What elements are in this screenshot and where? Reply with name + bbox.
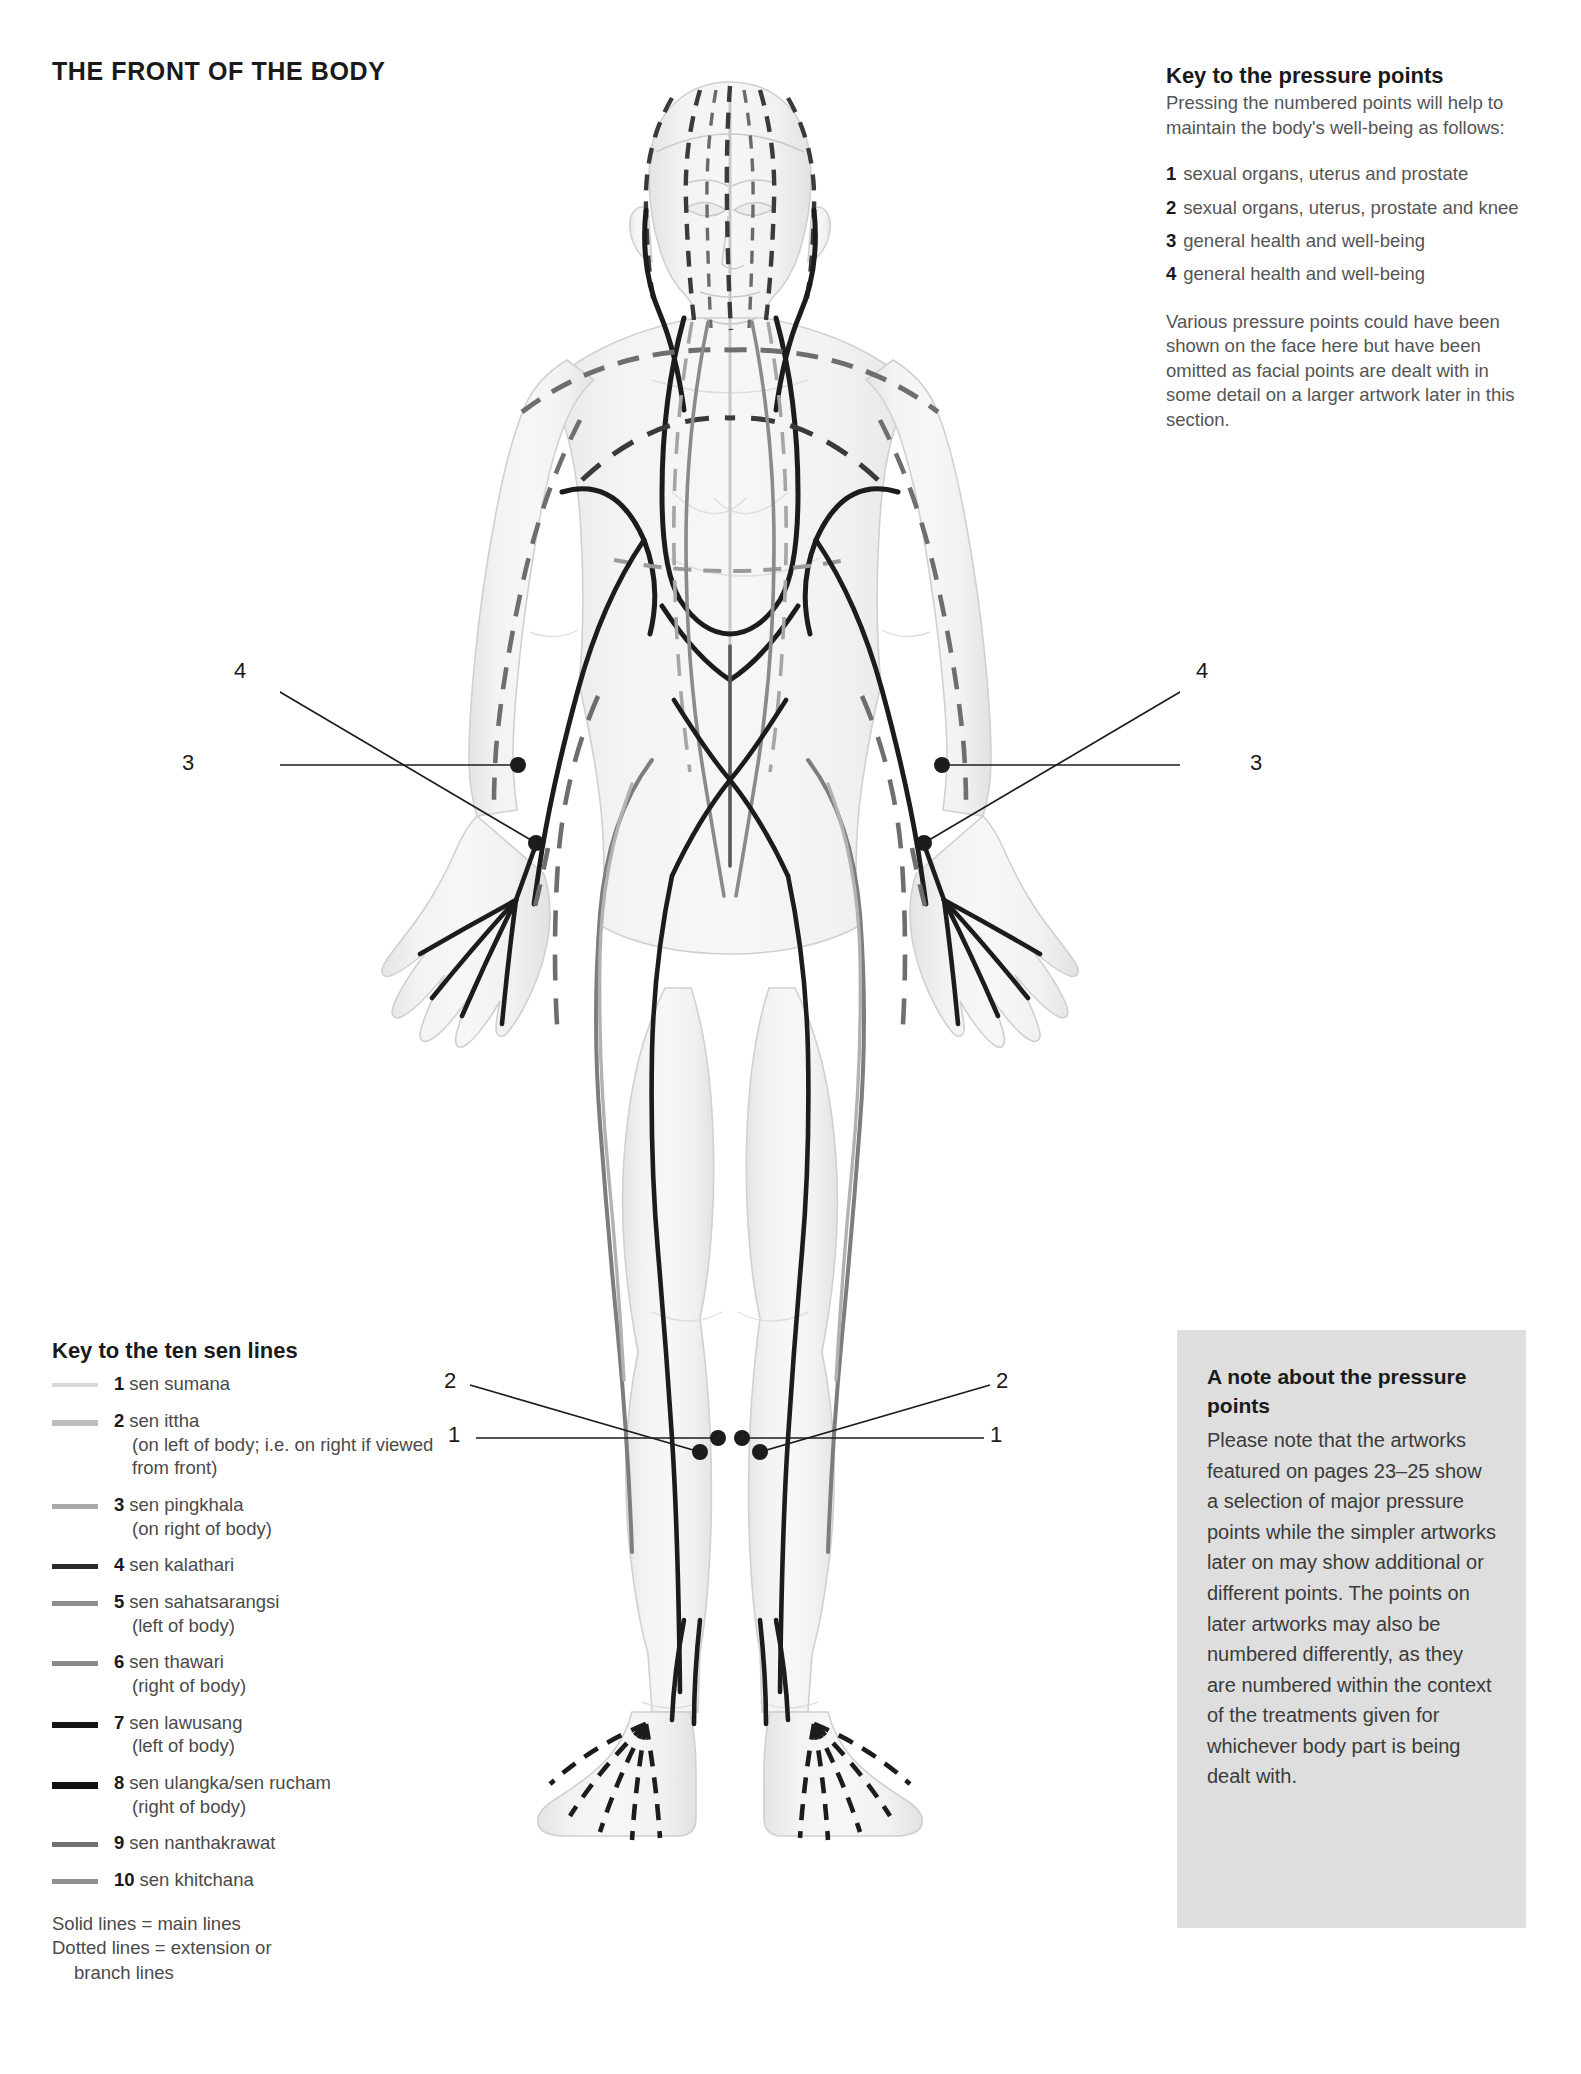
sen-line-label: 4sen kalathari — [114, 1553, 452, 1577]
sen-line-label: 6sen thawari (right of body) — [114, 1650, 452, 1697]
pressure-point-number: 3 — [1166, 229, 1176, 253]
sen-lines-list: 1sen sumana 2sen ittha (on left of body;… — [52, 1372, 452, 1891]
sen-swatch-cell — [52, 1553, 114, 1569]
sen-line-swatch — [52, 1504, 98, 1509]
sen-line-detail: (on left of body; i.e. on right if viewe… — [114, 1433, 452, 1480]
sen-line-swatch — [52, 1420, 98, 1426]
sen-swatch-cell — [52, 1711, 114, 1728]
sen-line-swatch — [52, 1661, 98, 1666]
pressure-point-text: sexual organs, uterus and prostate — [1183, 162, 1526, 186]
elbow-hint-left — [530, 630, 578, 637]
pressure-points-key: Key to the pressure points Pressing the … — [1166, 62, 1526, 433]
pressure-points-key-heading: Key to the pressure points — [1166, 62, 1526, 89]
point-dot-left-1 — [710, 1430, 726, 1446]
sen-line-number: 9 — [114, 1832, 124, 1853]
sen-line-name: sen lawusang — [129, 1712, 242, 1733]
point-dot-right-2 — [752, 1444, 768, 1460]
elbow-hint-right — [882, 630, 930, 637]
pressure-point-number: 4 — [1166, 262, 1176, 286]
foot-right — [764, 1712, 922, 1836]
sen-line-swatch — [52, 1383, 98, 1387]
sen-line-name: sen sumana — [129, 1373, 230, 1394]
sen-swatch-cell — [52, 1372, 114, 1387]
sen-line-number: 10 — [114, 1869, 135, 1890]
pressure-points-note-box: A note about the pressure points Please … — [1177, 1330, 1526, 1928]
callout-label-right-wrist-4: 4 — [1196, 660, 1208, 682]
sen-swatch-cell — [52, 1771, 114, 1789]
sen-line-label: 7sen lawusang (left of body) — [114, 1711, 452, 1758]
sen-swatch-cell — [52, 1868, 114, 1884]
sen-line-name: sen thawari — [129, 1651, 224, 1672]
sen-line-name: sen khitchana — [140, 1869, 254, 1890]
note-box-heading: A note about the pressure points — [1207, 1363, 1496, 1421]
point-dot-right-1 — [734, 1430, 750, 1446]
page-root: THE FRONT OF THE BODY — [0, 0, 1581, 2074]
leg-right — [746, 988, 837, 1712]
sen-swatch-cell — [52, 1493, 114, 1509]
callout-label-left-wrist-3: 3 — [182, 752, 194, 774]
sen-line-swatch — [52, 1782, 98, 1789]
sen-line-swatch — [52, 1879, 98, 1884]
pressure-point-item-2: 2 sexual organs, uterus, prostate and kn… — [1166, 196, 1526, 220]
sen-line-number: 5 — [114, 1591, 124, 1612]
sen-line-label: 2sen ittha (on left of body; i.e. on rig… — [114, 1409, 452, 1480]
pressure-points-key-intro: Pressing the numbered points will help t… — [1166, 91, 1526, 140]
sen-line-item-7: 7sen lawusang (left of body) — [52, 1711, 452, 1758]
point-dot-left-3 — [510, 757, 526, 773]
sen-line-number: 8 — [114, 1772, 124, 1793]
sen-line-detail: (right of body) — [114, 1795, 452, 1819]
sen-line-number: 2 — [114, 1410, 124, 1431]
sen-line-detail: (on right of body) — [114, 1517, 452, 1541]
sen-line-name: sen pingkhala — [129, 1494, 243, 1515]
pressure-point-number: 2 — [1166, 196, 1176, 220]
sen-line-name: sen sahatsarangsi — [129, 1591, 279, 1612]
sen-line-swatch — [52, 1842, 98, 1847]
pressure-point-text: sexual organs, uterus, prostate and knee — [1183, 196, 1526, 220]
sen-line-label: 5sen sahatsarangsi (left of body) — [114, 1590, 452, 1637]
sen-line-number: 1 — [114, 1373, 124, 1394]
callout-label-right-wrist-3: 3 — [1250, 752, 1262, 774]
leg-left — [623, 988, 714, 1712]
sen-line-item-5: 5sen sahatsarangsi (left of body) — [52, 1590, 452, 1637]
pressure-points-key-footnote: Various pressure points could have been … — [1166, 310, 1526, 433]
callout-label-left-wrist-4: 4 — [234, 660, 246, 682]
sen-lines-key: Key to the ten sen lines 1sen sumana 2se… — [52, 1337, 452, 1985]
pressure-points-list: 1 sexual organs, uterus and prostate 2 s… — [1166, 162, 1526, 285]
sen-line-label: 9sen nanthakrawat — [114, 1831, 452, 1855]
callout-label-right-ankle-1: 1 — [990, 1424, 1002, 1446]
foot-left — [538, 1712, 696, 1836]
sen-swatch-cell — [52, 1831, 114, 1847]
sen-line-item-10: 10sen khitchana — [52, 1868, 452, 1892]
pressure-point-number: 1 — [1166, 162, 1176, 186]
sen-line-number: 7 — [114, 1712, 124, 1733]
sen-footnote-line-2: Dotted lines = extension or — [52, 1937, 272, 1958]
sen-line-swatch — [52, 1564, 98, 1569]
callout-label-right-ankle-2: 2 — [996, 1370, 1008, 1392]
sen-line-item-2: 2sen ittha (on left of body; i.e. on rig… — [52, 1409, 452, 1480]
point-dot-right-3 — [934, 757, 950, 773]
pressure-point-item-1: 1 sexual organs, uterus and prostate — [1166, 162, 1526, 186]
point-dot-right-4 — [916, 835, 932, 851]
sen-line-item-8: 8sen ulangka/sen rucham (right of body) — [52, 1771, 452, 1818]
sen-line-label: 8sen ulangka/sen rucham (right of body) — [114, 1771, 452, 1818]
sen-line-detail: (right of body) — [114, 1674, 452, 1698]
sen-line-swatch — [52, 1722, 98, 1728]
sen-line-number: 4 — [114, 1554, 124, 1575]
sen-line-detail: (left of body) — [114, 1734, 452, 1758]
pressure-point-text: general health and well-being — [1183, 229, 1526, 253]
sen-line-name: sen kalathari — [129, 1554, 234, 1575]
sen-line-label: 3sen pingkhala (on right of body) — [114, 1493, 452, 1540]
point-dot-left-2 — [692, 1444, 708, 1460]
sen-swatch-cell — [52, 1590, 114, 1606]
sen-swatch-cell — [52, 1409, 114, 1426]
pressure-point-item-3: 3 general health and well-being — [1166, 229, 1526, 253]
sen-line-number: 6 — [114, 1651, 124, 1672]
sen-swatch-cell — [52, 1650, 114, 1666]
pressure-point-text: general health and well-being — [1183, 262, 1526, 286]
note-box-body: Please note that the artworks featured o… — [1207, 1425, 1496, 1792]
sen-line-label: 1sen sumana — [114, 1372, 452, 1396]
point-dot-left-4 — [528, 835, 544, 851]
sen-line-item-6: 6sen thawari (right of body) — [52, 1650, 452, 1697]
sen-lines-footnote: Solid lines = main lines Dotted lines = … — [52, 1912, 452, 1985]
sen-footnote-line-3: branch lines — [52, 1961, 452, 1985]
